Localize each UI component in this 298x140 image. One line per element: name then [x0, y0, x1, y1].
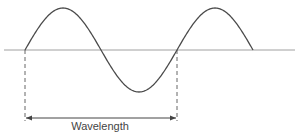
arrow-head-left-icon [26, 116, 32, 121]
arrow-head-right-icon [170, 116, 176, 121]
wave-diagram [0, 0, 298, 140]
wavelength-label: Wavelength [71, 120, 129, 132]
